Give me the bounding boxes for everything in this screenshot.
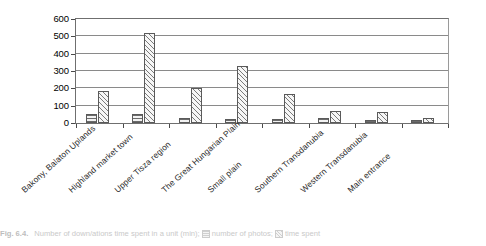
bar-group: [169, 19, 216, 123]
bar-group: [123, 19, 170, 123]
bar-time-spent: [377, 112, 388, 123]
y-axis-tick-label: 300: [29, 66, 69, 76]
y-axis-tick-mark: [71, 106, 75, 107]
caption-legend-time: time spent: [285, 229, 320, 238]
bar-number-of-photos: [365, 120, 376, 123]
bar-chart: 6005004003002001000 Bakony, Balaton Upla…: [0, 0, 486, 220]
x-axis-category-label: Bakony, Balaton Uplands: [20, 124, 97, 195]
figure-caption: Fig. 6.4.Number of down/ations time spen…: [0, 229, 486, 239]
bar-number-of-photos: [318, 118, 329, 123]
bar-group: [216, 19, 263, 123]
bar-number-of-photos: [179, 118, 190, 123]
bar-number-of-photos: [272, 119, 283, 123]
figure-number: Fig. 6.4.: [0, 229, 28, 238]
caption-legend-photos: number of photos;: [212, 229, 273, 238]
y-axis-tick-label: 100: [29, 101, 69, 111]
bar-number-of-photos: [411, 120, 422, 123]
y-axis-tick-label: 400: [29, 49, 69, 59]
x-axis-category-label: Small plain: [206, 160, 243, 195]
bar-number-of-photos: [132, 114, 143, 123]
bar-time-spent: [237, 66, 248, 123]
bars-layer: [76, 19, 448, 123]
caption-text: Number of down/ations time spent in a un…: [34, 229, 199, 238]
x-axis-category-label: Main entrance: [346, 152, 392, 195]
y-axis-tick-mark: [71, 71, 75, 72]
bar-time-spent: [144, 33, 155, 123]
y-axis-tick-mark: [71, 36, 75, 37]
y-axis-tick-mark: [71, 123, 75, 124]
bar-group: [262, 19, 309, 123]
y-axis-tick-label: 600: [29, 14, 69, 24]
x-axis-labels: Bakony, Balaton UplandsHighland market t…: [0, 126, 486, 218]
bar-time-spent: [330, 111, 341, 123]
x-axis-category-label: The Great Hungarian Plain: [160, 120, 242, 195]
y-axis-tick-mark: [71, 88, 75, 89]
y-axis-tick-label: 200: [29, 83, 69, 93]
bar-time-spent: [423, 118, 434, 123]
y-axis-tick-label: 500: [29, 31, 69, 41]
bar-time-spent: [284, 94, 295, 123]
bar-number-of-photos: [86, 114, 97, 123]
y-axis-tick-mark: [71, 19, 75, 20]
bar-group: [355, 19, 402, 123]
bar-group: [76, 19, 123, 123]
bar-time-spent: [98, 91, 109, 123]
figure-container: 6005004003002001000 Bakony, Balaton Upla…: [0, 0, 486, 246]
y-axis-tick-mark: [71, 54, 75, 55]
bar-group: [309, 19, 356, 123]
bar-group: [402, 19, 449, 123]
bar-time-spent: [191, 88, 202, 123]
legend-swatch-time-icon: [275, 230, 283, 238]
legend-swatch-photos-icon: [202, 230, 210, 238]
